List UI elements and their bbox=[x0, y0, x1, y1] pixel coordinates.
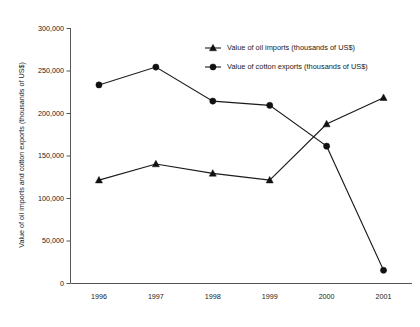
legend-circle-icon bbox=[210, 64, 216, 70]
legend-label: Value of oil imports (thousands of US$) bbox=[227, 43, 355, 52]
data-point bbox=[152, 160, 159, 166]
data-point bbox=[153, 64, 159, 70]
x-tick-label: 2000 bbox=[319, 292, 335, 301]
x-tick-label: 1999 bbox=[262, 292, 278, 301]
y-tick-label: 50,000 bbox=[42, 236, 64, 245]
y-axis-title: Value of oil imports and cotton exports … bbox=[17, 62, 26, 248]
legend-item[interactable]: Value of cotton exports (thousands of US… bbox=[205, 62, 368, 71]
data-point bbox=[324, 143, 330, 149]
x-tick-label: 1998 bbox=[205, 292, 221, 301]
data-point bbox=[380, 94, 387, 100]
data-point bbox=[380, 267, 386, 273]
y-axis-title-group: Value of oil imports and cotton exports … bbox=[17, 62, 26, 248]
y-tick-label: 0 bbox=[60, 279, 64, 288]
chart-page: Value of oil imports and cotton exports … bbox=[0, 0, 420, 327]
x-tick-label: 1997 bbox=[148, 292, 164, 301]
data-point bbox=[96, 82, 102, 88]
series-1 bbox=[95, 94, 387, 183]
series-line bbox=[99, 98, 384, 180]
data-point bbox=[323, 120, 330, 126]
chart-legend: Value of oil imports (thousands of US$)V… bbox=[205, 43, 368, 71]
y-tick-label: 150,000 bbox=[38, 151, 64, 160]
series-line bbox=[99, 67, 384, 270]
x-tick-label: 2001 bbox=[376, 292, 392, 301]
data-point bbox=[267, 102, 273, 108]
y-tick-label: 250,000 bbox=[38, 66, 64, 75]
y-tick-label: 100,000 bbox=[38, 194, 64, 203]
y-tick-label: 300,000 bbox=[38, 24, 64, 33]
x-tick-label-group: 199619971998199920002001 bbox=[91, 292, 392, 301]
y-tick-mark-group bbox=[67, 29, 71, 284]
y-tick-label: 200,000 bbox=[38, 109, 64, 118]
x-tick-label: 1996 bbox=[91, 292, 107, 301]
data-point bbox=[210, 98, 216, 104]
legend-label: Value of cotton exports (thousands of US… bbox=[227, 62, 368, 71]
y-tick-label-group: 050,000100,000150,000200,000250,000300,0… bbox=[38, 24, 64, 288]
line-chart: Value of oil imports and cotton exports … bbox=[0, 0, 420, 327]
legend-item[interactable]: Value of oil imports (thousands of US$) bbox=[205, 43, 355, 52]
series-layer bbox=[95, 64, 387, 273]
